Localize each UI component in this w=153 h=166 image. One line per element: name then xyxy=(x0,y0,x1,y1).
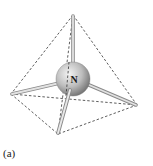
atom-label-n: N xyxy=(70,74,78,85)
edge-right-bottom xyxy=(58,105,137,134)
bond-bottom xyxy=(58,90,70,133)
tetrahedral-molecule-figure: N (a) xyxy=(0,0,153,166)
figure-caption: (a) xyxy=(3,147,15,159)
tetrahedron-diagram: N xyxy=(0,0,153,166)
edge-left-bottom xyxy=(11,94,58,134)
